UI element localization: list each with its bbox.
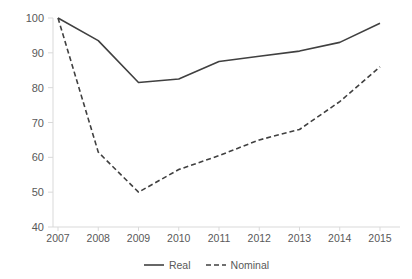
y-tick-label: 70	[14, 118, 44, 129]
y-tick-label: 90	[14, 48, 44, 59]
x-tick-label: 2014	[320, 233, 360, 244]
x-tick-label: 2007	[38, 233, 78, 244]
x-tick-label: 2009	[119, 233, 159, 244]
chart-legend: RealNominal	[0, 256, 412, 274]
tick-marks	[48, 18, 380, 231]
legend-label: Nominal	[231, 259, 270, 271]
x-tick-label: 2010	[159, 233, 199, 244]
line-chart: 405060708090100 200720082009201020112012…	[0, 0, 412, 279]
x-tick-label: 2012	[239, 233, 279, 244]
y-tick-label: 40	[14, 222, 44, 233]
legend-entry-real[interactable]: Real	[143, 259, 191, 271]
y-tick-label: 60	[14, 152, 44, 163]
legend-swatch-solid-icon	[143, 261, 165, 269]
y-tick-label: 100	[14, 13, 44, 24]
x-tick-label: 2013	[280, 233, 320, 244]
series-layer	[58, 18, 380, 192]
x-tick-label: 2015	[360, 233, 400, 244]
series-line-real	[58, 18, 380, 82]
x-tick-label: 2011	[199, 233, 239, 244]
legend-entry-nominal[interactable]: Nominal	[205, 259, 270, 271]
x-tick-label: 2008	[78, 233, 118, 244]
y-tick-label: 80	[14, 83, 44, 94]
y-tick-label: 50	[14, 187, 44, 198]
legend-swatch-dashed-icon	[205, 261, 227, 269]
legend-label: Real	[169, 259, 191, 271]
